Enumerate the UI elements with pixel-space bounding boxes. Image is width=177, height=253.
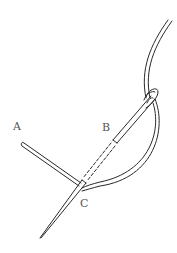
label-b: B — [102, 122, 110, 133]
thread-arc — [82, 99, 159, 191]
needle-hidden-section — [83, 143, 115, 181]
label-c: C — [80, 198, 88, 209]
upper-thread — [144, 20, 172, 98]
sewing-stitch-diagram — [0, 0, 177, 253]
label-a: A — [13, 121, 21, 132]
thread-tail-a — [21, 142, 81, 186]
needle-upper-section — [113, 96, 155, 143]
